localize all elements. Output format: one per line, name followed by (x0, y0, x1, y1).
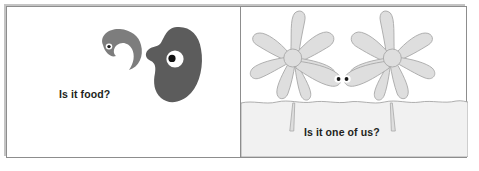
small-creature-pupil (107, 45, 110, 48)
panel-left-artwork (7, 7, 240, 157)
figure-container: Is it food? (0, 0, 479, 171)
small-comma-creature (102, 29, 142, 70)
amoeba-right-pupil (345, 77, 349, 81)
panel-left: Is it food? (7, 7, 240, 157)
illustration-frame: Is it food? (6, 6, 467, 158)
panel-right: Is it one of us? (240, 7, 468, 157)
large-blob-creature (146, 27, 202, 102)
blob-creature-pupil (168, 55, 175, 62)
caption-is-it-food: Is it food? (59, 88, 110, 100)
caption-is-it-one-of-us: Is it one of us? (304, 126, 380, 138)
amoeba-left-pupil (337, 77, 341, 81)
